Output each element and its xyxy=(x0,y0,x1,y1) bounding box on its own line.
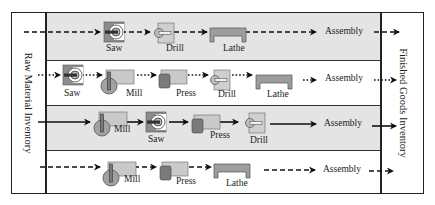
route-3-step-mill-label: Mill xyxy=(114,124,130,134)
press-icon xyxy=(159,70,187,88)
flow-graphics xyxy=(0,0,435,205)
lathe-icon xyxy=(214,164,250,178)
route-4-step-lathe-label: Lathe xyxy=(226,178,248,188)
process-flow-diagram: Raw Material Inventory Finished Goods In… xyxy=(0,0,435,205)
route-4-assembly-label: Assembly xyxy=(323,164,361,174)
route-4-step-press-label: Press xyxy=(176,176,196,186)
route-2-assembly-label: Assembly xyxy=(325,73,363,83)
route-2-step-press-label: Press xyxy=(176,88,196,98)
route-1-step-drill-label: Drill xyxy=(166,43,184,53)
route-2-step-mill-label: Mill xyxy=(126,88,142,98)
lathe-icon xyxy=(210,28,246,42)
route-1-step-saw-label: Saw xyxy=(106,43,122,53)
drill-icon xyxy=(155,23,175,43)
route-2-step-lathe-label: Lathe xyxy=(267,89,289,99)
route-1-step-lathe-label: Lathe xyxy=(223,43,245,53)
route-3-assembly-label: Assembly xyxy=(324,118,362,128)
drill-icon xyxy=(246,113,266,133)
route-2-step-drill-label: Drill xyxy=(218,89,236,99)
saw-icon xyxy=(104,22,124,42)
route-3-step-saw-label: Saw xyxy=(148,134,164,144)
route-2-step-saw-label: Saw xyxy=(64,88,80,98)
route-3-step-drill-label: Drill xyxy=(250,135,268,145)
saw-icon xyxy=(63,65,83,85)
route-1-assembly-label: Assembly xyxy=(325,26,363,36)
lathe-icon xyxy=(256,75,292,89)
saw-icon xyxy=(146,112,166,132)
route-4-step-mill-label: Mill xyxy=(124,174,140,184)
route-3-step-press-label: Press xyxy=(210,130,230,140)
drill-icon xyxy=(211,70,231,90)
